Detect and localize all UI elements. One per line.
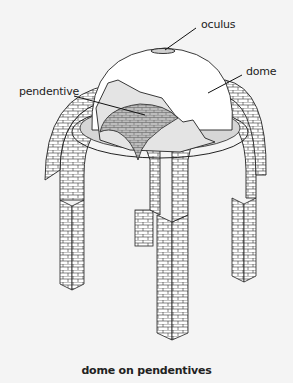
dome-label: dome [246,65,276,78]
dome-on-pendentives-illustration [0,0,293,383]
back-pier [135,210,153,246]
oculus-label: oculus [201,18,235,31]
left-pier [60,200,84,290]
right-pier [232,198,256,282]
oculus [151,49,175,54]
oculus-leader-line [165,28,196,50]
front-pier [157,215,188,340]
pendentive-label: pendentive [19,85,79,98]
dome [92,48,233,160]
figure-caption: dome on pendentives [0,364,293,377]
